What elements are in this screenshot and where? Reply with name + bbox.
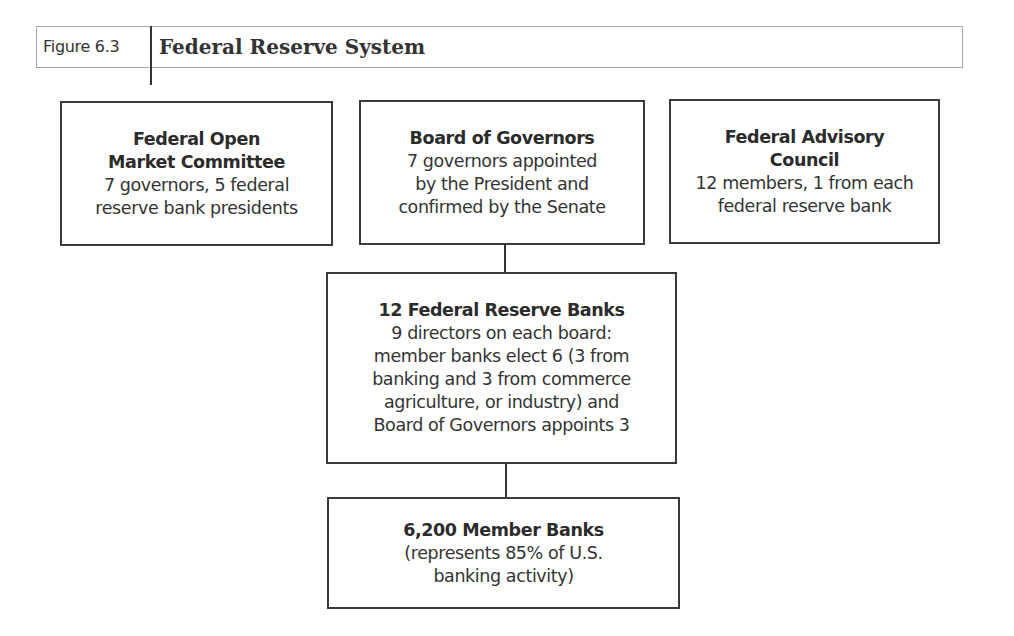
members-desc-line: (represents 85% of U.S.	[404, 542, 602, 565]
fomc-box: Federal Open Market Committee 7 governor…	[60, 101, 333, 246]
federal-reserve-banks-box: 12 Federal Reserve Banks 9 directors on …	[326, 272, 677, 464]
fomc-desc-line: reserve bank presidents	[95, 197, 297, 220]
board-title: Board of Governors	[410, 127, 595, 150]
fac-desc-line: federal reserve bank	[696, 195, 914, 218]
fac-title-line: Council	[725, 149, 885, 172]
frb-title-line: 12 Federal Reserve Banks	[378, 299, 624, 322]
header-divider	[150, 26, 152, 85]
fac-description: 12 members, 1 from each federal reserve …	[696, 172, 914, 218]
members-title: 6,200 Member Banks	[403, 519, 604, 542]
frb-desc-line: member banks elect 6 (3 from	[372, 345, 631, 368]
figure-header: Figure 6.3 Federal Reserve System	[36, 26, 963, 68]
members-description: (represents 85% of U.S. banking activity…	[404, 542, 602, 588]
frb-desc-line: Board of Governors appoints 3	[372, 414, 631, 437]
figure-label: Figure 6.3	[43, 27, 119, 69]
frb-description: 9 directors on each board: member banks …	[372, 322, 631, 437]
board-desc-line: by the President and	[398, 173, 605, 196]
frb-title: 12 Federal Reserve Banks	[378, 299, 624, 322]
frb-desc-line: banking and 3 from commerce	[372, 368, 631, 391]
fac-title-line: Federal Advisory	[725, 126, 885, 149]
board-desc-line: 7 governors appointed	[398, 150, 605, 173]
fomc-title-line: Market Committee	[108, 151, 285, 174]
member-banks-box: 6,200 Member Banks (represents 85% of U.…	[327, 497, 680, 609]
fomc-description: 7 governors, 5 federal reserve bank pres…	[95, 174, 297, 220]
board-description: 7 governors appointed by the President a…	[398, 150, 605, 219]
fomc-title-line: Federal Open	[108, 128, 285, 151]
connector-board-to-frb	[504, 244, 506, 273]
members-title-line: 6,200 Member Banks	[403, 519, 604, 542]
board-desc-line: confirmed by the Senate	[398, 196, 605, 219]
fac-title: Federal Advisory Council	[725, 126, 885, 172]
members-desc-line: banking activity)	[404, 565, 602, 588]
board-of-governors-box: Board of Governors 7 governors appointed…	[359, 100, 645, 245]
federal-advisory-council-box: Federal Advisory Council 12 members, 1 f…	[669, 99, 940, 244]
fac-desc-line: 12 members, 1 from each	[696, 172, 914, 195]
frb-desc-line: 9 directors on each board:	[372, 322, 631, 345]
fomc-title: Federal Open Market Committee	[108, 128, 285, 174]
connector-frb-to-members	[505, 463, 507, 498]
fomc-desc-line: 7 governors, 5 federal	[95, 174, 297, 197]
figure-title: Federal Reserve System	[159, 27, 425, 69]
board-title-line: Board of Governors	[410, 127, 595, 150]
frb-desc-line: agriculture, or industry) and	[372, 391, 631, 414]
